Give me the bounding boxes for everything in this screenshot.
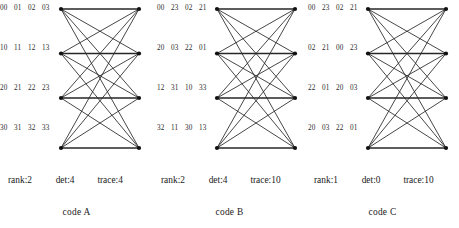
stat-rank: rank:1 [314,174,362,187]
code-cell: 02 [308,44,322,53]
code-name-group-b: code B [153,206,306,226]
graph-node-right-1 [137,51,141,55]
graph-node-left-3 [59,146,63,150]
figure-root: 00 01 02 03 10 11 12 13 20 21 22 23 [0,0,459,228]
graph-node-left-2 [215,96,219,100]
graph-node-left-1 [215,51,219,55]
stats-group-c: rank:1 det:0 trace:10 [306,174,459,194]
code-name-group-c: code C [306,206,459,226]
graph-node-right-3 [293,146,297,150]
code-cell: 02 [28,4,42,13]
code-cell: 03 [322,124,336,133]
graph-node-right-1 [293,51,297,55]
code-cell: 22 [336,124,350,133]
panel-code-c: 00 23 02 21 02 21 00 23 22 01 20 03 [306,0,459,170]
graph-edges [61,9,139,148]
bipartite-graph-svg [55,0,145,170]
graph-node-right-0 [444,7,448,11]
code-cell: 10 [0,44,14,53]
stats-group-a: rank:2 det:4 trace:4 [0,174,153,194]
panels-container: 00 01 02 03 10 11 12 13 20 21 22 23 [0,0,459,170]
code-cell: 20 [157,44,171,53]
panel-code-b: 00 23 02 21 20 03 22 01 12 31 10 33 [153,0,306,170]
graph-node-left-1 [366,51,370,55]
bipartite-graph-a [55,0,145,170]
stat-trace: trace:4 [97,174,153,187]
code-name-c: code C [368,206,396,219]
code-cell: 01 [14,4,28,13]
captions-container: rank:2 det:4 trace:4 rank:2 det:4 trace:… [0,170,459,228]
stats-group-b: rank:2 det:4 trace:10 [153,174,306,194]
code-cell: 00 [336,44,350,53]
graph-edges [217,9,295,148]
code-name-b: code B [215,206,243,219]
code-cell: 32 [157,124,171,133]
code-cell: 23 [171,4,185,13]
graph-node-right-2 [293,96,297,100]
graph-node-right-3 [137,146,141,150]
graph-edges [368,9,446,148]
stat-det: det:4 [56,174,98,187]
graph-node-left-3 [366,146,370,150]
code-cell: 22 [185,44,199,53]
graph-node-right-0 [137,7,141,11]
code-name-a: code A [62,206,90,219]
graph-node-right-3 [444,146,448,150]
code-cell: 21 [322,44,336,53]
bipartite-graph-c [362,0,452,170]
panel-code-a: 00 01 02 03 10 11 12 13 20 21 22 23 [0,0,153,170]
stat-rank: rank:2 [161,174,209,187]
code-cell: 13 [42,44,56,53]
code-cell: 03 [171,44,185,53]
code-cell: 22 [308,84,322,93]
code-cell: 31 [14,124,28,133]
stat-det: det:4 [209,174,251,187]
code-cell: 12 [157,84,171,93]
graph-node-left-1 [59,51,63,55]
graph-node-left-3 [215,146,219,150]
code-cell: 30 [0,124,14,133]
graph-node-left-2 [59,96,63,100]
code-cell: 31 [171,84,185,93]
graph-node-right-2 [444,96,448,100]
code-cell: 11 [14,44,28,53]
code-name-group-a: code A [0,206,153,226]
code-names-row: code A code B code C [0,206,459,226]
stat-trace: trace:10 [250,174,306,187]
code-cell: 00 [308,4,322,13]
code-cell: 23 [322,4,336,13]
code-cell: 20 [308,124,322,133]
code-cell: 12 [28,44,42,53]
code-cell: 20 [0,84,14,93]
graph-node-left-0 [366,7,370,11]
graph-node-left-2 [366,96,370,100]
bipartite-graph-svg [362,0,452,170]
code-cell: 00 [157,4,171,13]
bipartite-graph-svg [211,0,301,170]
code-cell: 03 [42,4,56,13]
stat-rank: rank:2 [8,174,56,187]
code-cell: 11 [171,124,185,133]
code-cell: 30 [185,124,199,133]
code-cell: 20 [336,84,350,93]
code-cell: 00 [0,4,14,13]
stats-row: rank:2 det:4 trace:4 rank:2 det:4 trace:… [0,174,459,194]
code-cell: 02 [336,4,350,13]
graph-node-right-1 [444,51,448,55]
code-cell: 02 [185,4,199,13]
graph-node-right-2 [137,96,141,100]
code-cell: 32 [28,124,42,133]
bipartite-graph-b [211,0,301,170]
code-cell: 21 [14,84,28,93]
graph-node-right-0 [293,7,297,11]
graph-node-left-0 [215,7,219,11]
code-cell: 01 [322,84,336,93]
code-cell: 23 [42,84,56,93]
code-cell: 22 [28,84,42,93]
stat-trace: trace:10 [403,174,459,187]
graph-node-left-0 [59,7,63,11]
code-cell: 10 [185,84,199,93]
code-cell: 33 [42,124,56,133]
stat-det: det:0 [362,174,404,187]
